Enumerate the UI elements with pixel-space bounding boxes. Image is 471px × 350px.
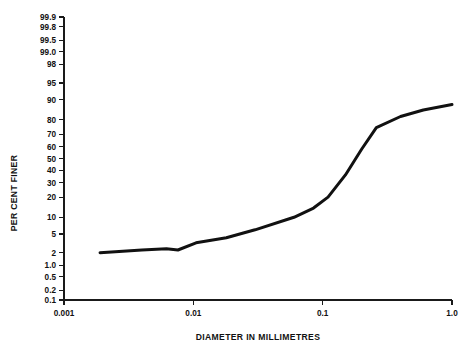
y-tick-label: 99.0 bbox=[40, 48, 56, 57]
chart-canvas: 99.999.899.599.0989590807060504030201052… bbox=[0, 0, 471, 350]
y-tick-label: 30 bbox=[47, 179, 57, 188]
y-tick-label: 5 bbox=[51, 230, 56, 239]
y-tick-label: 95 bbox=[47, 79, 57, 88]
y-axis-title: PER CENT FINER bbox=[9, 154, 19, 231]
grading-curve-line bbox=[100, 105, 452, 253]
y-tick-label: 50 bbox=[47, 155, 57, 164]
y-tick-label: 60 bbox=[47, 143, 57, 152]
x-tick-label: 0.1 bbox=[317, 309, 329, 318]
chart-figure: 99.999.899.599.0989590807060504030201052… bbox=[0, 0, 471, 350]
y-tick-group bbox=[59, 17, 64, 300]
y-tick-label-group: 99.999.899.599.0989590807060504030201052… bbox=[40, 13, 56, 305]
y-tick-label: 40 bbox=[47, 166, 57, 175]
y-axis-group: 99.999.899.599.0989590807060504030201052… bbox=[40, 13, 64, 305]
y-tick-label: 99.5 bbox=[40, 36, 56, 45]
x-tick-label: 0.01 bbox=[185, 309, 201, 318]
y-tick-label: 1.0 bbox=[45, 261, 57, 270]
x-tick-label: 1.0 bbox=[446, 309, 458, 318]
x-tick-label: 0.001 bbox=[54, 309, 75, 318]
y-tick-label: 70 bbox=[47, 130, 57, 139]
y-tick-label: 99.8 bbox=[40, 23, 56, 32]
y-tick-label: 10 bbox=[47, 213, 57, 222]
x-tick-label-group: 0.0010.010.11.0 bbox=[54, 309, 458, 318]
x-tick-group bbox=[64, 300, 452, 305]
y-tick-label: 0.1 bbox=[45, 296, 57, 305]
y-tick-label: 90 bbox=[47, 96, 57, 105]
y-tick-label: 20 bbox=[47, 193, 57, 202]
y-tick-label: 0.5 bbox=[45, 273, 57, 282]
data-series-group bbox=[100, 105, 452, 253]
y-tick-label: 0.2 bbox=[45, 286, 57, 295]
x-axis-group: 0.0010.010.11.0 bbox=[54, 300, 458, 318]
x-axis-title: DIAMETER IN MILLIMETRES bbox=[196, 332, 321, 342]
y-tick-label: 99.9 bbox=[40, 13, 56, 22]
y-tick-label: 80 bbox=[47, 116, 57, 125]
y-tick-label: 2 bbox=[51, 249, 56, 258]
y-tick-label: 98 bbox=[47, 60, 57, 69]
